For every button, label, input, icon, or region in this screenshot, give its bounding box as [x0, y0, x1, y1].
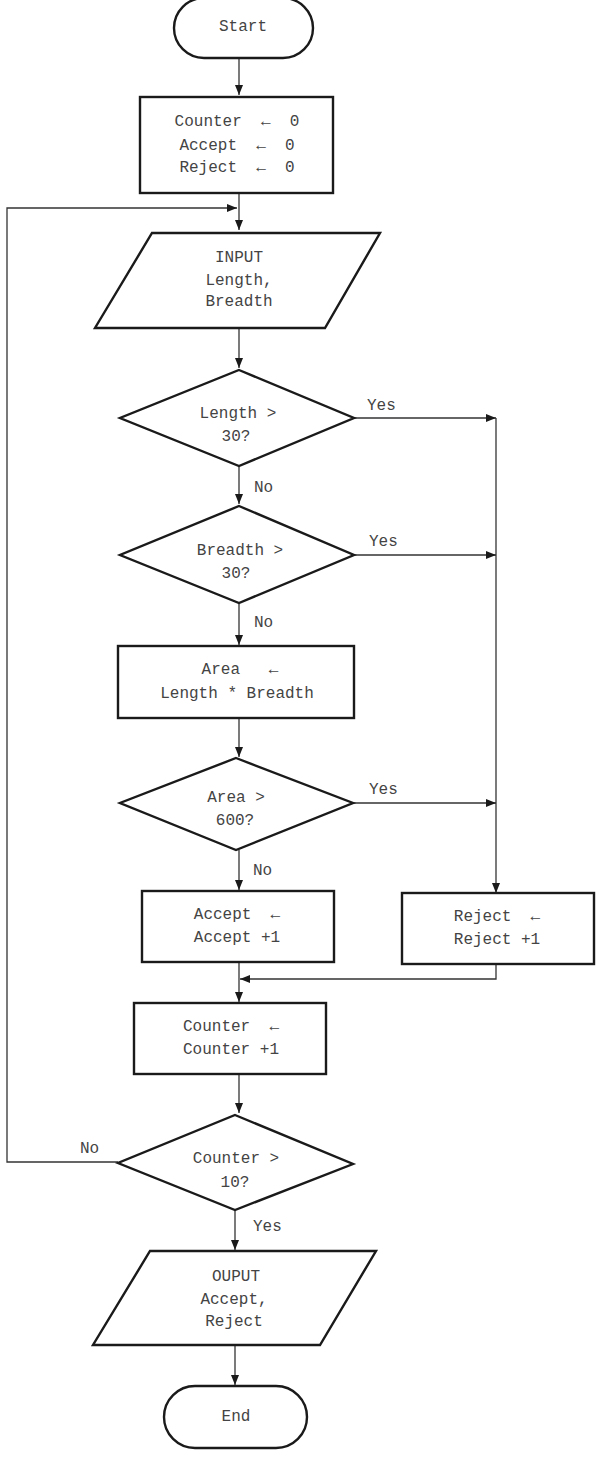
area-yes-label: Yes	[369, 781, 398, 799]
decision-breadth: Breadth > 30?	[120, 506, 354, 603]
arrow-reject-merge	[240, 964, 496, 979]
decision-length-line-1: Length >	[200, 405, 277, 423]
decision-area: Area > 600?	[120, 758, 353, 850]
counter-no-label: No	[80, 1140, 99, 1158]
input-box: INPUT Length, Breadth	[95, 233, 380, 328]
decision-length: Length > 30?	[120, 370, 354, 466]
reject-inc-line-1: Reject ←	[454, 908, 541, 926]
start-terminal: Start	[174, 0, 313, 58]
output-box: OUPUT Accept, Reject	[93, 1251, 376, 1345]
input-line-3: Breadth	[205, 293, 272, 311]
counter-increment-process: Counter ← Counter +1	[134, 1003, 326, 1074]
area-no-label: No	[253, 862, 272, 880]
end-terminal: End	[164, 1386, 307, 1448]
area-line-2: Length * Breadth	[160, 685, 314, 703]
breadth-yes-label: Yes	[369, 533, 398, 551]
accept-inc-line-1: Accept ←	[194, 906, 281, 924]
decision-counter: Counter > 10?	[118, 1115, 353, 1210]
end-label: End	[222, 1408, 251, 1426]
reject-increment-process: Reject ← Reject +1	[402, 893, 594, 964]
counter-inc-line-1: Counter ←	[183, 1018, 279, 1036]
output-line-1: OUPUT	[212, 1268, 260, 1286]
accept-increment-process: Accept ← Accept +1	[142, 891, 334, 962]
breadth-no-label: No	[254, 614, 273, 632]
counter-inc-line-2: Counter +1	[183, 1041, 279, 1059]
start-label: Start	[219, 18, 267, 36]
flowchart: Start Counter ← 0 Accept ← 0 Reject ← 0 …	[0, 0, 604, 1458]
input-line-1: INPUT	[215, 249, 263, 267]
accept-inc-line-2: Accept +1	[194, 929, 280, 947]
init-line-accept: Accept ← 0	[179, 137, 294, 155]
area-line-1: Area ←	[202, 661, 279, 679]
decision-counter-line-1: Counter >	[193, 1150, 279, 1168]
decision-area-line-2: 600?	[216, 812, 254, 830]
init-line-counter: Counter ← 0	[175, 113, 300, 131]
decision-counter-line-2: 10?	[221, 1174, 250, 1192]
length-yes-label: Yes	[367, 397, 396, 415]
area-process: Area ← Length * Breadth	[118, 646, 354, 718]
decision-length-line-2: 30?	[222, 428, 251, 446]
counter-yes-label: Yes	[253, 1218, 282, 1236]
input-line-2: Length,	[205, 272, 272, 290]
init-line-reject: Reject ← 0	[179, 159, 294, 177]
reject-inc-line-2: Reject +1	[454, 931, 540, 949]
length-no-label: No	[254, 479, 273, 497]
decision-area-line-1: Area >	[207, 789, 265, 807]
init-process: Counter ← 0 Accept ← 0 Reject ← 0	[140, 97, 333, 193]
decision-breadth-line-2: 30?	[222, 565, 251, 583]
output-line-3: Reject	[205, 1313, 263, 1331]
decision-breadth-line-1: Breadth >	[197, 542, 283, 560]
output-line-2: Accept,	[200, 1291, 267, 1309]
